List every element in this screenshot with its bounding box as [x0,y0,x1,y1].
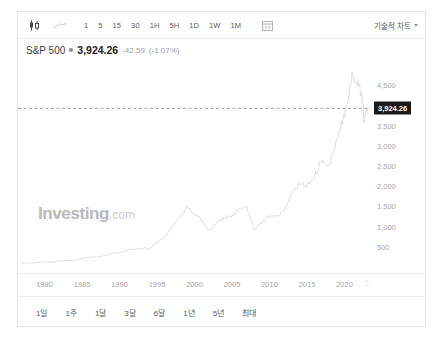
date-axis: ⋮ 198019851990199520002005201020152020 [18,273,425,296]
chevron-down-icon [414,24,418,27]
price-tick-1500: 1,500 [377,202,396,211]
investing-watermark: Investing.com [38,204,135,224]
range-5y[interactable]: 5년 [204,303,233,322]
price-tick-3500: 3,500 [377,121,396,130]
price-line [22,72,367,264]
chart-plot-area[interactable]: Investing.com 5001,0001,5002,0002,5003,0… [18,61,425,273]
date-tick-2010: 2010 [261,280,278,289]
price-tick-1000: 1,000 [377,222,396,231]
calendar-icon[interactable] [254,12,280,38]
price-line-svg [18,61,371,273]
interval-1w[interactable]: 1W [204,18,225,33]
range-3mo[interactable]: 3달 [115,303,144,322]
status-dot-icon [69,48,73,52]
range-1mo[interactable]: 1달 [86,303,115,322]
range-selector: 1일 1주 1달 3달 6달 1년 5년 최대 [18,296,425,327]
axis-end-marker-icon: ⋮ [364,281,371,285]
date-tick-2020: 2020 [336,280,353,289]
current-price-badge: 3,924.26 [374,102,411,115]
date-tick-1980: 1980 [36,280,53,289]
date-tick-2015: 2015 [299,280,316,289]
candlestick-icon[interactable] [21,12,47,38]
symbol-change-percent: (-1.07%) [149,46,180,55]
interval-1[interactable]: 1 [79,18,93,33]
interval-5h[interactable]: 5H [164,18,184,33]
interval-1m[interactable]: 1M [226,18,247,33]
range-1w[interactable]: 1주 [56,303,85,322]
price-tick-3000: 3,000 [377,141,396,150]
date-tick-1990: 1990 [111,280,128,289]
technical-chart-label: 기술적 차트 [374,20,411,31]
interval-5[interactable]: 5 [93,18,107,33]
range-1d[interactable]: 1일 [27,303,56,322]
interval-1h[interactable]: 1H [145,18,165,33]
line-chart-icon[interactable] [47,12,73,38]
date-tick-1985: 1985 [74,280,91,289]
price-tick-4500: 4,500 [377,81,396,90]
price-tick-2000: 2,000 [377,182,396,191]
interval-30[interactable]: 30 [126,18,145,33]
date-tick-2005: 2005 [224,280,241,289]
price-tick-2500: 2,500 [377,162,396,171]
symbol-change: -42.59 [122,46,145,55]
interval-15[interactable]: 15 [108,18,127,33]
date-tick-2000: 2000 [186,280,203,289]
symbol-name: S&P 500 [26,45,65,56]
technical-chart-dropdown[interactable]: 기술적 차트 [374,20,418,31]
chart-widget: 1 5 15 30 1H 5H 1D 1W 1M 기술적 차트 S [17,11,426,327]
price-tick-500: 500 [377,242,390,251]
symbol-header: S&P 500 3,924.26 -42.59 (-1.07%) [18,39,425,61]
symbol-price: 3,924.26 [77,44,118,56]
watermark-suffix: .com [109,208,135,222]
range-1y[interactable]: 1년 [174,303,203,322]
watermark-main: Investing [38,204,109,223]
interval-group: 1 5 15 30 1H 5H 1D 1W 1M [79,18,246,33]
range-6mo[interactable]: 6달 [145,303,174,322]
chart-toolbar: 1 5 15 30 1H 5H 1D 1W 1M 기술적 차트 [18,12,425,39]
range-max[interactable]: 최대 [233,303,265,322]
date-tick-1995: 1995 [149,280,166,289]
price-axis: 5001,0001,5002,0002,5003,0003,5004,5003,… [369,61,425,273]
interval-1d[interactable]: 1D [184,18,204,33]
